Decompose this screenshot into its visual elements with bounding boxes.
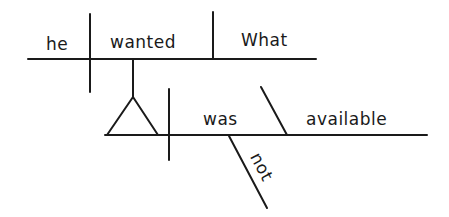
predicate-adjective-word: available bbox=[306, 111, 387, 128]
sentence-diagram: he wanted What was available not bbox=[0, 0, 449, 217]
clause-verb-word: was bbox=[203, 111, 238, 128]
subject-word: he bbox=[46, 36, 68, 53]
verb-word: wanted bbox=[110, 34, 176, 51]
predicate-adjective-slash bbox=[261, 87, 287, 135]
direct-object-word: What bbox=[241, 32, 288, 49]
pedestal-triangle bbox=[107, 97, 158, 135]
